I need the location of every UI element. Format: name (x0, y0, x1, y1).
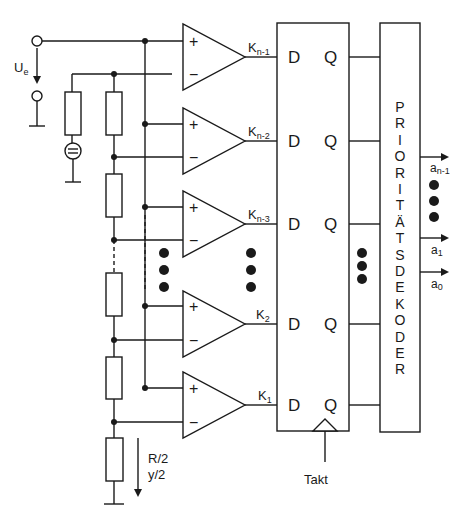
svg-text:Q: Q (324, 215, 337, 234)
svg-text:−: − (189, 414, 198, 431)
svg-text:Kn-3: Kn-3 (248, 207, 270, 224)
decoder-letter: R (395, 165, 405, 181)
decoder-letter: I (398, 132, 402, 148)
decoder-letter: E (395, 279, 404, 295)
svg-text:−: − (189, 66, 198, 83)
svg-text:D: D (288, 315, 300, 334)
output-ellipsis-dots (429, 180, 439, 222)
svg-text:an-1: an-1 (430, 161, 450, 176)
svg-text:D: D (288, 48, 300, 67)
comparator-k-n-1: + − Kn-1 (183, 24, 277, 90)
svg-text:Kn-1: Kn-1 (248, 40, 270, 57)
svg-text:+: + (189, 116, 198, 133)
decoder-letter: R (395, 361, 405, 377)
svg-text:Q: Q (324, 48, 337, 67)
svg-text:K2: K2 (256, 307, 270, 324)
comparator-k-2: + − K2 (183, 291, 277, 357)
svg-text:K1: K1 (258, 388, 272, 405)
bottom-resistor-label-r: R/2 (148, 451, 168, 466)
svg-text:Q: Q (324, 315, 337, 334)
decoder-letter: O (395, 148, 406, 164)
clock-label: Takt (304, 472, 328, 487)
ellipsis-dots-right (246, 248, 256, 292)
comparator-k-1: + − K1 (183, 372, 277, 438)
decoder-letter: D (395, 263, 405, 279)
svg-text:+: + (189, 380, 198, 397)
flipflop-register: Takt D Q D Q D Q D Q D Q (277, 23, 349, 487)
svg-text:Q: Q (324, 132, 337, 151)
decoder-letter: O (395, 312, 406, 328)
bottom-resistor-label-y: y/2 (148, 467, 165, 482)
decoder-letter: K (395, 296, 405, 312)
ladder-resistor-1 (106, 92, 122, 135)
svg-text:D: D (288, 132, 300, 151)
svg-text:−: − (189, 332, 198, 349)
svg-text:−: − (189, 149, 198, 166)
flash-adc-diagram: Ue R/2 y/2 (0, 0, 467, 518)
svg-text:a1: a1 (431, 243, 443, 258)
ladder-resistor-2 (106, 174, 122, 217)
svg-text:+: + (189, 199, 198, 216)
comparator-k-n-2: + − Kn-2 (183, 108, 277, 174)
resistor-ladder (104, 74, 124, 504)
svg-text:+: + (189, 298, 198, 315)
svg-text:Q: Q (324, 396, 337, 415)
input-terminal-bottom (29, 91, 45, 126)
input-voltage-arrow (33, 48, 41, 84)
decoder-letter: I (398, 181, 402, 197)
output-a-1: a1 (420, 234, 449, 258)
reference-resistor (65, 92, 81, 135)
ellipsis-dots-left (159, 248, 169, 292)
output-a-0: a0 (420, 268, 449, 292)
reference-source-icon (65, 143, 81, 159)
decoder-letter: R (395, 115, 405, 131)
bottom-resistor-arrow (134, 438, 142, 497)
ellipsis-dots-register (357, 248, 367, 284)
svg-text:D: D (288, 396, 300, 415)
svg-text:a0: a0 (431, 277, 443, 292)
svg-text:+: + (189, 33, 198, 50)
decoder-letter: P (395, 99, 404, 115)
decoder-letter: T (396, 230, 405, 246)
ladder-resistor-3 (106, 273, 122, 316)
decoder-letter: D (395, 329, 405, 345)
input-voltage-label: Ue (14, 60, 28, 77)
decoder-letter: E (395, 345, 404, 361)
decoder-letter: S (395, 247, 404, 263)
ladder-resistor-4 (106, 357, 122, 399)
ladder-resistor-bottom (106, 438, 123, 481)
svg-text:D: D (288, 215, 300, 234)
svg-text:Kn-2: Kn-2 (248, 124, 270, 141)
output-a-n-1: an-1 (420, 153, 450, 176)
input-terminal-top (32, 36, 42, 46)
decoder-letter: T (396, 197, 405, 213)
decoder-letter: Ä (395, 214, 405, 230)
comparator-k-n-3: + − Kn-3 (183, 191, 277, 257)
svg-text:−: − (189, 232, 198, 249)
priority-decoder: PRIORITÄTSDEKODER (380, 23, 420, 432)
